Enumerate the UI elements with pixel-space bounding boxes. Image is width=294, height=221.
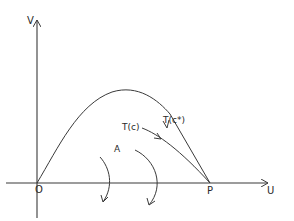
t-c-label: T(c) [121, 122, 139, 132]
point-p-label: P [207, 185, 213, 196]
curve-t-c-star [37, 90, 210, 183]
u-axis-label: U [267, 185, 274, 196]
curve-t-c [142, 128, 210, 183]
region-a-label: A [114, 144, 121, 154]
v-axis-label: V [27, 15, 34, 26]
flow-arrow-left [100, 157, 110, 202]
flow-arrow-right [135, 150, 157, 205]
origin-label: O [35, 184, 43, 195]
t-c-star-label: T(c*) [162, 115, 185, 125]
diagram-canvas: V U O P T(c*) T(c) A [0, 0, 294, 221]
